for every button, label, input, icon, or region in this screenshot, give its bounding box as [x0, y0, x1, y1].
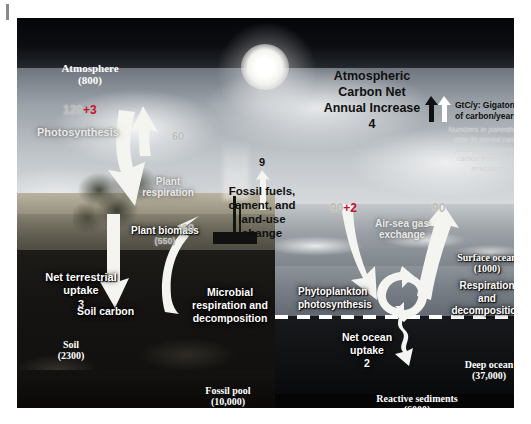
- page-root: Atmosphere (800) 120+3 Photosynthesis 60…: [0, 0, 531, 424]
- flux-label-net-ocean-uptake: Net ocean uptake 2: [328, 331, 406, 370]
- pool-label-surface-ocean: Surface ocean (1000): [435, 252, 514, 274]
- flux-value-air-sea-uptake: 90+2: [330, 202, 357, 215]
- flux-label-soil-carbon: Soil carbon: [77, 306, 134, 318]
- header-atmospheric-net-increase: Atmospheric Carbon Net Annual Increase 4: [299, 68, 445, 132]
- carbon-cycle-figure: Atmosphere (800) 120+3 Photosynthesis 60…: [17, 18, 514, 408]
- flux-label-fossil-emissions: Fossil fuels, cement, and land-use chang…: [203, 184, 321, 240]
- flux-value-fossil-emissions: 9: [203, 156, 321, 168]
- pool-label-soil: Soil (2300): [33, 339, 109, 361]
- flux-value-microbial-respiration: 60: [182, 222, 194, 234]
- flux-value-plant-respiration: 60: [172, 130, 184, 142]
- flux-label-air-sea-exchange: Air-sea gas exchange: [359, 218, 445, 240]
- plant-respiration-arrow: [127, 106, 163, 156]
- legend-note: Numbers in parentheses refer to stored c…: [435, 125, 514, 174]
- pool-label-fossil: Fossil pool (10,000): [169, 385, 287, 407]
- sun: [241, 44, 289, 90]
- crop-mark: [6, 4, 9, 20]
- pool-label-reactive-sediments: Reactive sediments (6000): [335, 393, 499, 408]
- pool-label-deep-ocean: Deep ocean (37,000): [437, 359, 514, 381]
- flux-value-photosynthesis: 120+3: [63, 104, 97, 117]
- legend-unit-label: GtC/y: Gigatons of carbon/year: [455, 100, 514, 121]
- flux-label-phytoplankton-photosynthesis: Phytoplankton photosynthesis: [298, 286, 398, 311]
- flux-label-microbial-respiration: Microbial respiration and decomposition: [174, 286, 286, 325]
- flux-label-ocean-respiration: Respiration and decomposition: [435, 280, 514, 318]
- flux-value-air-sea-release: 90: [432, 202, 445, 215]
- flux-label-photosynthesis: Photosynthesis: [37, 126, 119, 138]
- flux-label-plant-respiration: Plant respiration: [129, 176, 207, 198]
- pool-label-atmosphere: Atmosphere (800): [35, 62, 145, 87]
